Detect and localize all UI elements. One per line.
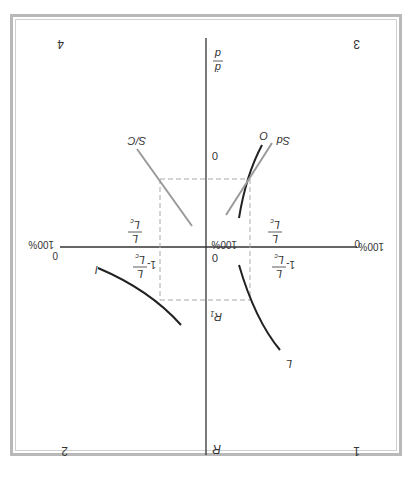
curve-S-over-C [137,149,192,226]
svg-text:L: L [272,233,278,245]
quadrant-2-label: 2 [61,444,68,458]
fraction-right-lower: 1- L Lc [272,253,295,280]
curve-L-label: L [286,358,292,370]
curve-Sd-label: Sd [276,135,290,147]
axis-R-label: R [212,442,221,456]
axis-R1-label: R₁ [210,311,222,323]
svg-text:L: L [132,233,138,245]
four-quadrant-diagram: 1 2 3 4 R R₁ 0 0 100% 0 100% 0 100% ḋ d … [0,0,410,480]
svg-text:1-: 1- [147,259,156,270]
left-end-zero-label: 0 [52,250,58,261]
center-100-percent-label: 100% [211,239,237,250]
svg-text:L: L [276,268,282,280]
svg-text:Lc: Lc [130,218,140,231]
fraction-right-upper: L Lc [268,218,282,245]
fraction-left-lower: 1- L Lc [133,253,156,280]
svg-text:Lc: Lc [274,253,284,266]
origin-zero-label: 0 [212,252,218,264]
left-end-100-percent-label: 100% [28,239,54,250]
svg-text:ḋ: ḋ [214,62,221,74]
svg-text:Lc: Lc [270,218,280,231]
quadrant-4-label: 4 [57,37,64,51]
curve-S-over-C-label: S/C [128,135,146,147]
curve-I-label: I [95,264,98,276]
svg-text:L: L [137,268,143,280]
svg-text:Lc: Lc [135,253,145,266]
curve-L [239,265,280,350]
fraction-left-upper: L Lc [128,218,142,245]
right-end-100-percent-label: 100% [358,241,384,252]
svg-text:1-: 1- [286,259,295,270]
ddot-over-d-label: ḋ d [213,48,223,74]
svg-text:d: d [214,48,221,60]
quadrant-3-label: 3 [353,37,360,51]
quadrant-1-label: 1 [353,444,360,458]
curve-labels: I L O Sd S/C [95,130,292,370]
upper-zero-label: 0 [212,150,218,162]
curve-O-label: O [259,130,268,142]
